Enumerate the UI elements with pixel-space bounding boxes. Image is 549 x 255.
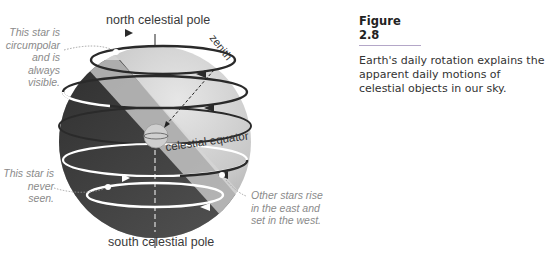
circumpolar-star: [113, 49, 119, 55]
circumpolar-annotation: This star is circumpolar and is always v…: [2, 26, 60, 89]
rise-set-star: [219, 172, 225, 178]
rise-set-annotation: Other stars rise in the east and set in …: [251, 189, 323, 227]
figure-caption-text: Earth's daily rotation explains the appa…: [359, 54, 549, 96]
zenith-label: zenith: [207, 32, 235, 63]
never-seen-annotation: This star is never seen.: [2, 167, 54, 205]
figure-caption: Figure 2.8 Earth's daily rotation explai…: [359, 14, 549, 96]
north-celestial-pole-label: north celestial pole: [106, 13, 210, 27]
figure-title: Figure 2.8: [359, 14, 421, 46]
never-seen-star: [105, 184, 111, 190]
celestial-sphere-diagram: zenith celestial equator north celestial…: [0, 0, 330, 255]
south-celestial-pole-label: south celestial pole: [108, 235, 214, 249]
